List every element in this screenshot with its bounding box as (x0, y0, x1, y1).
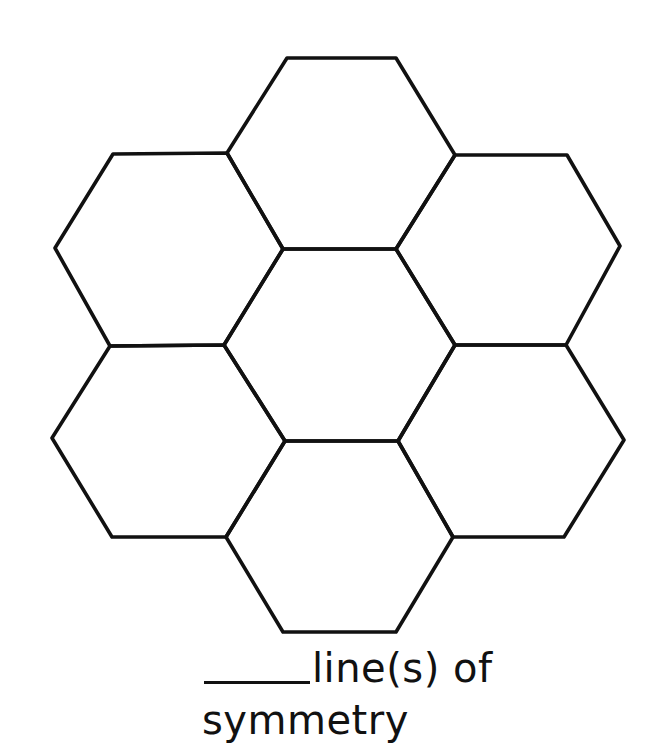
hexagon-center (224, 249, 455, 441)
caption-line-1: line(s) of (204, 648, 493, 688)
hexagon-upper-right (396, 155, 620, 345)
hexagon-upper-left (55, 153, 283, 346)
hexagon-lower-left (52, 345, 285, 537)
hexagon-bottom (226, 441, 453, 632)
caption-text-line1: line(s) of (312, 648, 493, 688)
caption-line-2: symmetry (202, 700, 409, 740)
answer-blank[interactable] (204, 681, 310, 684)
hexagon-flower-figure (0, 0, 661, 743)
hexagon-top (227, 58, 455, 249)
hexagon-lower-right (398, 345, 624, 537)
